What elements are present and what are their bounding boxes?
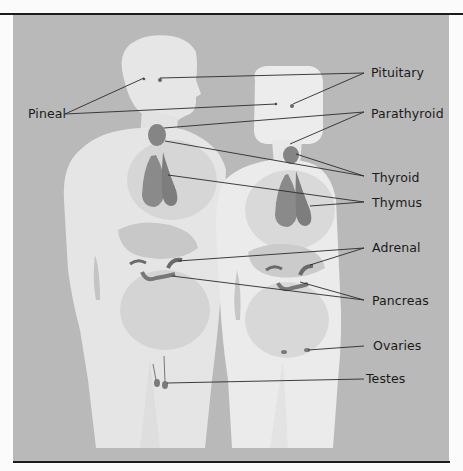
label-testes: Testes — [366, 372, 405, 386]
label-pineal: Pineal — [28, 107, 66, 121]
label-pancreas: Pancreas — [372, 294, 429, 308]
label-ovaries: Ovaries — [373, 339, 421, 353]
label-thymus: Thymus — [372, 196, 422, 210]
male-pituitary — [158, 78, 162, 82]
bottom-rule — [13, 461, 450, 463]
label-pituitary: Pituitary — [371, 66, 424, 80]
male-thyroid — [148, 124, 166, 146]
label-parathyroid: Parathyroid — [371, 107, 444, 121]
female-thyroid — [283, 146, 299, 164]
ovary-left — [281, 350, 287, 354]
female-pituitary — [290, 104, 294, 108]
label-adrenal: Adrenal — [372, 241, 421, 255]
label-thyroid: Thyroid — [372, 171, 420, 185]
